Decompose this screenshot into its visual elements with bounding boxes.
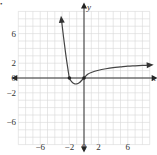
y-tick-label: −6 xyxy=(6,117,16,127)
coordinate-plane: −6−2026620−2−6 y x • xyxy=(0,0,157,155)
y-tick-label: 0 xyxy=(12,73,17,83)
problem-bullet: • xyxy=(0,0,3,8)
x-axis-label: x xyxy=(151,73,156,83)
function-curve xyxy=(61,19,149,84)
function-graph: −6−2026620−2−6 y x • xyxy=(0,0,157,155)
intercept-point xyxy=(68,76,72,80)
x-tick-label: −6 xyxy=(35,142,45,152)
curve-arrow-end-icon xyxy=(147,62,154,68)
x-tick-label: 2 xyxy=(96,142,101,152)
x-tick-label: −2 xyxy=(65,142,75,152)
y-tick-label: 2 xyxy=(12,58,17,68)
x-tick-label: 6 xyxy=(126,142,131,152)
x-tick-label: 0 xyxy=(82,142,87,152)
intercept-point xyxy=(82,76,86,80)
y-axis-label: y xyxy=(86,2,91,12)
tick-labels: −6−2026620−2−6 xyxy=(6,29,130,152)
y-tick-label: 6 xyxy=(12,29,17,39)
y-tick-label: −2 xyxy=(6,88,16,98)
